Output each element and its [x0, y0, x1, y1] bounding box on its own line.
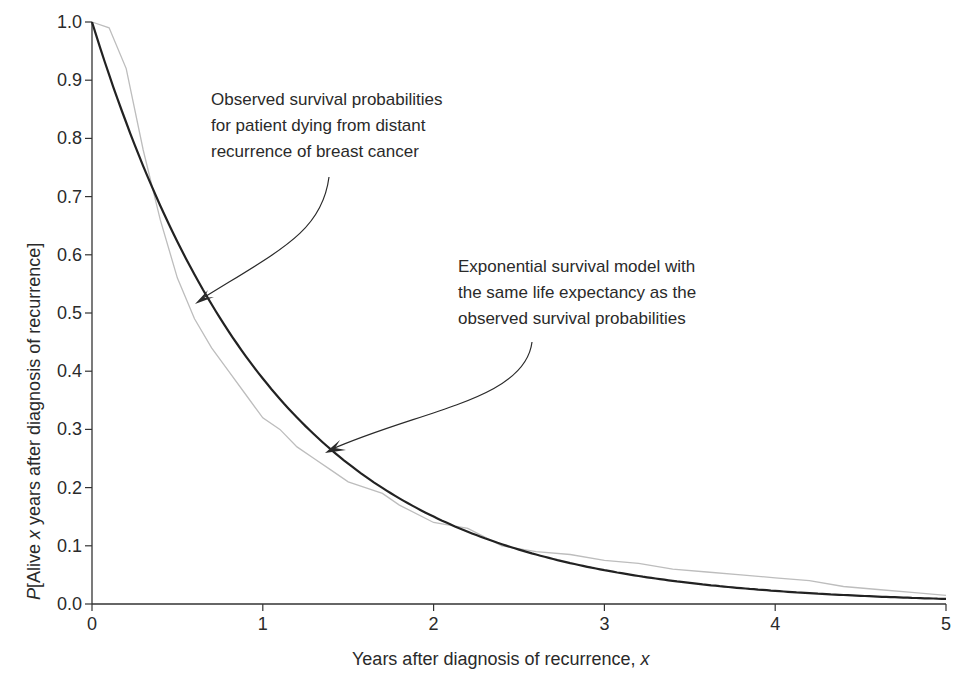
- y-tick-label: 0.7: [57, 187, 82, 207]
- y-tick-label: 0.9: [57, 70, 82, 90]
- x-axis-ticks: 012345: [87, 604, 951, 634]
- annotation-observed-line-3: recurrence of breast cancer: [211, 142, 419, 161]
- y-tick-label: 0.2: [57, 478, 82, 498]
- annotation-observed-arrow: [200, 177, 329, 300]
- y-axis-ticks: 0.00.10.20.30.40.50.60.70.80.91.0: [57, 12, 92, 614]
- annotation-observed-line-2: for patient dying from distant: [211, 116, 426, 135]
- x-tick-label: 3: [599, 614, 609, 634]
- x-tick-label: 2: [429, 614, 439, 634]
- y-tick-label: 0.3: [57, 419, 82, 439]
- y-tick-label: 0.5: [57, 303, 82, 323]
- x-tick-label: 1: [258, 614, 268, 634]
- y-tick-label: 0.6: [57, 245, 82, 265]
- annotation-model-arrow: [330, 342, 532, 450]
- y-tick-label: 1.0: [57, 12, 82, 32]
- y-tick-label: 0.4: [57, 361, 82, 381]
- annotation-model-line-2: the same life expectancy as the: [458, 283, 696, 302]
- y-tick-label: 0.8: [57, 128, 82, 148]
- x-axis-title: Years after diagnosis of recurrence, x: [352, 649, 651, 669]
- annotation-observed: Observed survival probabilities for pati…: [195, 90, 443, 304]
- x-tick-label: 0: [87, 614, 97, 634]
- survival-chart: 0.00.10.20.30.40.50.60.70.80.91.0 012345…: [0, 0, 959, 683]
- annotation-model: Exponential survival model with the same…: [325, 257, 696, 453]
- x-tick-label: 5: [941, 614, 951, 634]
- y-tick-label: 0.0: [57, 594, 82, 614]
- annotation-model-line-1: Exponential survival model with: [458, 257, 695, 276]
- annotation-observed-line-1: Observed survival probabilities: [211, 90, 443, 109]
- annotation-model-line-3: observed survival probabilities: [458, 309, 686, 328]
- y-axis-title: P[Alive x years after diagnosis of recur…: [24, 243, 44, 600]
- y-tick-label: 0.1: [57, 536, 82, 556]
- x-tick-label: 4: [770, 614, 780, 634]
